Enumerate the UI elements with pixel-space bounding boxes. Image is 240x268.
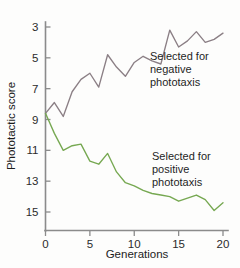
x-tick-label: 15 [172, 238, 185, 250]
y-axis-ticks: 3579111315 [26, 21, 51, 218]
chart-canvas: 3579111315 05101520 Selected fornegative… [0, 0, 240, 268]
chart-annotations: Selected fornegativephototaxisSelected f… [150, 50, 211, 188]
y-axis-group: 3579111315 [26, 21, 51, 231]
series-line-negative-phototaxis [46, 30, 224, 116]
negative-phototaxis-label: Selected fornegativephototaxis [150, 50, 209, 88]
y-tick-label: 3 [32, 21, 38, 33]
negative-phototaxis-label-line: phototaxis [150, 76, 201, 88]
negative-phototaxis-label-line: negative [150, 63, 192, 75]
x-tick-label: 0 [42, 238, 48, 250]
positive-phototaxis-label-line: Selected for [152, 150, 211, 162]
x-tick-label: 20 [217, 238, 230, 250]
y-tick-label: 13 [26, 175, 39, 187]
y-tick-label: 7 [32, 83, 38, 95]
y-tick-label: 15 [26, 206, 39, 218]
y-tick-label: 11 [27, 144, 39, 156]
y-tick-label: 9 [32, 114, 38, 126]
phototaxis-selection-chart: 3579111315 05101520 Selected fornegative… [0, 0, 240, 268]
negative-phototaxis-label-line: Selected for [150, 50, 209, 62]
positive-phototaxis-label: Selected forpositivephototaxis [152, 150, 211, 188]
positive-phototaxis-label-line: positive [152, 163, 189, 175]
y-tick-label: 5 [32, 52, 38, 64]
x-tick-label: 5 [87, 238, 93, 250]
x-axis-title: Generations [106, 248, 169, 260]
y-axis-title: Phototactic score [5, 82, 17, 170]
positive-phototaxis-label-line: phototaxis [152, 176, 203, 188]
